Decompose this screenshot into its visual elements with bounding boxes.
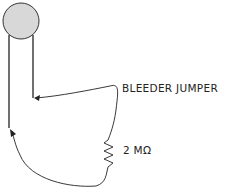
bleeder-jumper-label: BLEEDER JUMPER xyxy=(122,82,218,94)
jumper-wire-top xyxy=(36,85,118,140)
arrow-right-lead-icon xyxy=(34,95,40,101)
resistor-value-label: 2 MΩ xyxy=(123,144,151,156)
jumper-wire-bottom xyxy=(12,131,108,186)
probe-head xyxy=(3,3,39,39)
bleeder-jumper-diagram xyxy=(0,0,241,193)
resistor-symbol xyxy=(104,140,113,167)
